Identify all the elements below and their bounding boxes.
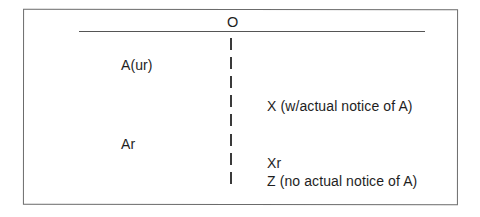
left-party-ar: Ar [121, 136, 135, 152]
root-owner-label: O [227, 14, 238, 30]
left-party-a-ur: A(ur) [121, 57, 153, 73]
right-party-xr: Xr [267, 155, 281, 171]
divider-segment [230, 114, 232, 126]
right-party-x: X (w/actual notice of A) [267, 98, 413, 114]
divider-segment [230, 172, 232, 184]
divider-segment [230, 153, 232, 165]
divider-segment [230, 76, 232, 88]
root-horizontal-line [79, 31, 425, 32]
divider-segment [230, 95, 232, 107]
divider-segment [230, 57, 232, 69]
right-party-z: Z (no actual notice of A) [267, 173, 417, 189]
divider-segment [230, 134, 232, 146]
divider-segment [230, 38, 232, 50]
